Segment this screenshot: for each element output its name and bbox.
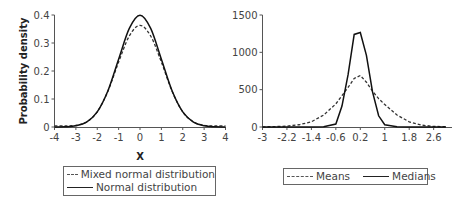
- x-tick-label: -4: [50, 132, 60, 143]
- y-tick-label: 1500: [232, 10, 257, 21]
- y-tick-label: 0.1: [34, 94, 50, 105]
- solid-line-swatch-icon: [67, 187, 93, 188]
- x-tick-label: 0.2: [352, 132, 368, 143]
- x-tick-label: -2.2: [277, 132, 297, 143]
- x-tick-label: 3: [201, 132, 207, 143]
- legend-item-medians: Medians: [360, 170, 436, 183]
- y-tick-label: 0: [251, 122, 257, 133]
- x-tick-label: -3: [71, 132, 81, 143]
- x-tick-label: -3: [258, 132, 268, 143]
- right-y-ticks: 050010001500: [232, 10, 262, 133]
- x-tick-label: -1.4: [302, 132, 322, 143]
- y-tick-label: 500: [238, 84, 257, 95]
- x-tick-label: -2: [92, 132, 102, 143]
- left-chart: Probability density 00.10.20.30.4 -4-3-2…: [18, 10, 229, 163]
- means-curve: [263, 75, 446, 126]
- left-y-ticks: 00.10.20.30.4: [34, 10, 55, 133]
- y-tick-label: 1000: [232, 47, 257, 58]
- x-tick-label: 1: [382, 132, 388, 143]
- legend-label: Normal distribution: [96, 181, 197, 194]
- mixed-normal-curve: [55, 25, 226, 126]
- y-tick-label: 0: [43, 122, 49, 133]
- legend-item-mixed-normal: Mixed normal distribution: [64, 168, 215, 181]
- solid-line-swatch-icon: [363, 176, 389, 177]
- legend-label: Mixed normal distribution: [81, 168, 215, 181]
- x-tick-label: 4: [222, 132, 228, 143]
- legend-item-means: Means: [284, 170, 350, 183]
- right-x-ticks: -3-2.2-1.4-0.60.211.82.6: [258, 127, 442, 143]
- legend-label: Means: [316, 170, 350, 183]
- x-tick-label: 1.8: [401, 132, 417, 143]
- legend-label: Medians: [392, 170, 436, 183]
- normal-curve: [55, 15, 226, 127]
- y-tick-label: 0.2: [34, 66, 50, 77]
- dashed-line-swatch-icon: [287, 176, 313, 177]
- right-legend: Means Medians: [283, 168, 428, 185]
- medians-curve: [263, 33, 446, 127]
- x-tick-label: -0.6: [326, 132, 346, 143]
- left-x-axis-title: X: [136, 151, 144, 162]
- y-tick-label: 0.4: [34, 10, 50, 21]
- x-tick-label: 2: [180, 132, 186, 143]
- left-legend: Mixed normal distribution Normal distrib…: [63, 166, 216, 196]
- left-y-axis-title: Probability density: [18, 17, 29, 124]
- x-tick-label: 0: [137, 132, 143, 143]
- legend-item-normal: Normal distribution: [64, 181, 215, 194]
- x-tick-label: 2.6: [426, 132, 442, 143]
- y-tick-label: 0.3: [34, 38, 50, 49]
- x-tick-label: -1: [114, 132, 124, 143]
- right-chart: 050010001500 -3-2.2-1.4-0.60.211.82.6: [232, 10, 452, 144]
- dashed-line-swatch-icon: [67, 174, 78, 175]
- x-tick-label: 1: [158, 132, 164, 143]
- left-x-ticks: -4-3-2-101234: [50, 127, 229, 143]
